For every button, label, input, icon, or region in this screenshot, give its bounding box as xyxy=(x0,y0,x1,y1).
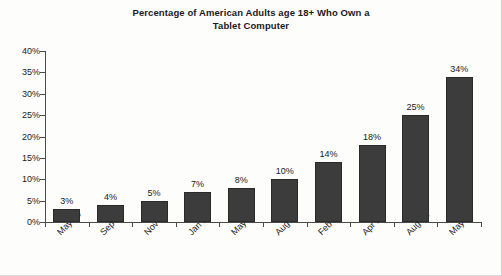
bar-value-label: 8% xyxy=(221,176,261,185)
chart-title-line-2: Tablet Computer xyxy=(60,20,442,33)
y-axis-tick-mark xyxy=(40,137,45,138)
bar-value-label: 34% xyxy=(439,65,479,74)
bar xyxy=(315,162,342,222)
bar xyxy=(271,179,298,222)
chart-title: Percentage of American Adults age 18+ Wh… xyxy=(60,7,442,32)
y-axis-tick-mark xyxy=(40,94,45,95)
y-axis-tick-mark xyxy=(40,201,45,202)
y-axis-tick-mark xyxy=(40,115,45,116)
bar-value-label: 14% xyxy=(308,150,348,159)
bar-value-label: 5% xyxy=(134,189,174,198)
bar xyxy=(97,205,124,222)
y-axis-tick-mark xyxy=(40,72,45,73)
x-axis-tick-mark xyxy=(437,222,438,227)
y-axis-tick-label: 20% xyxy=(6,132,40,141)
bar-value-label: 3% xyxy=(47,197,87,206)
x-axis-tick-mark xyxy=(394,222,395,227)
bar-value-label: 25% xyxy=(396,103,436,112)
x-axis-tick-mark xyxy=(176,222,177,227)
bar xyxy=(446,77,473,222)
y-axis-tick-mark xyxy=(40,51,45,52)
x-axis-tick-mark xyxy=(45,222,46,227)
x-axis-tick-mark xyxy=(89,222,90,227)
bar-value-label: 10% xyxy=(265,167,305,176)
y-axis-tick-label: 10% xyxy=(6,175,40,184)
y-axis-tick-label: 0% xyxy=(6,218,40,227)
bar xyxy=(53,209,80,222)
x-axis-tick-mark xyxy=(263,222,264,227)
bar xyxy=(228,188,255,222)
y-axis-tick-mark xyxy=(40,179,45,180)
bar xyxy=(359,145,386,222)
y-axis-tick-label: 15% xyxy=(6,153,40,162)
bar-value-label: 7% xyxy=(178,180,218,189)
y-axis-tick-label: 35% xyxy=(6,68,40,77)
x-axis-tick-mark xyxy=(132,222,133,227)
x-axis-tick-mark xyxy=(350,222,351,227)
bar xyxy=(184,192,211,222)
bar-value-label: 4% xyxy=(90,193,130,202)
bar xyxy=(402,115,429,222)
chart-page: Percentage of American Adults age 18+ Wh… xyxy=(0,0,502,276)
x-axis-tick-mark xyxy=(307,222,308,227)
y-axis-tick-label: 5% xyxy=(6,196,40,205)
chart-title-line-1: Percentage of American Adults age 18+ Wh… xyxy=(60,7,442,20)
y-axis-tick-label: 40% xyxy=(6,47,40,56)
x-axis-tick-mark xyxy=(481,222,482,227)
y-axis-tick-label: 25% xyxy=(6,111,40,120)
y-axis-tick-label: 30% xyxy=(6,89,40,98)
y-axis-tick-mark xyxy=(40,158,45,159)
bar xyxy=(141,201,168,222)
bar-value-label: 18% xyxy=(352,133,392,142)
x-axis-tick-mark xyxy=(219,222,220,227)
